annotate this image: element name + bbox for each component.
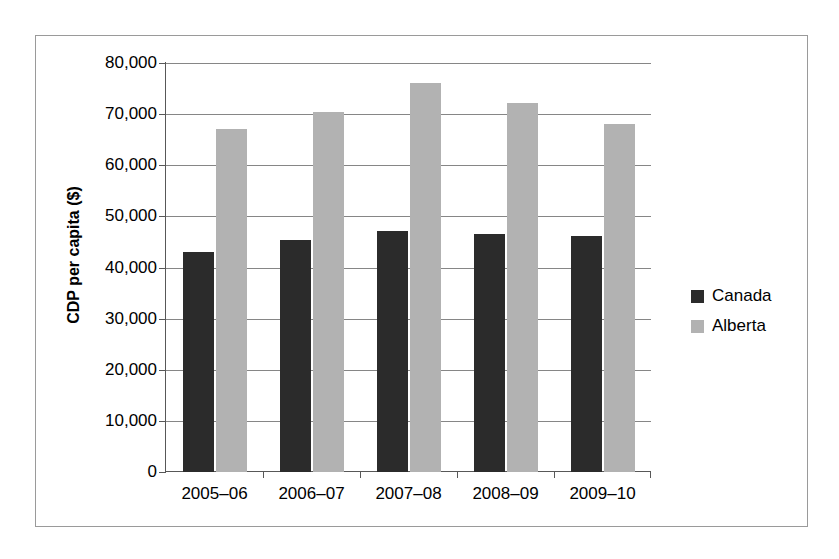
x-tick-mark <box>263 472 264 478</box>
y-tick-mark <box>159 268 166 269</box>
legend-swatch-icon <box>691 320 704 333</box>
bar-group <box>183 63 247 472</box>
bar-group <box>474 63 538 472</box>
plot-area: 010,00020,00030,00040,00050,00060,00070,… <box>166 63 651 472</box>
x-tick-mark <box>650 472 651 478</box>
y-tick-mark <box>159 370 166 371</box>
y-tick-label: 0 <box>148 462 157 482</box>
bar-group <box>571 63 635 472</box>
legend-label: Alberta <box>712 316 766 336</box>
y-tick-label: 40,000 <box>105 258 157 278</box>
bar-canada-2009–10[interactable] <box>571 236 602 472</box>
y-axis-title: CDP per capita ($) <box>65 155 83 355</box>
bar-alberta-2005–06[interactable] <box>216 129 247 472</box>
y-tick-label: 50,000 <box>105 206 157 226</box>
y-tick-label: 60,000 <box>105 155 157 175</box>
y-tick-mark <box>159 319 166 320</box>
y-tick-mark <box>159 216 166 217</box>
legend-label: Canada <box>712 286 772 306</box>
y-tick-mark <box>159 165 166 166</box>
y-tick-label: 80,000 <box>105 53 157 73</box>
bar-canada-2005–06[interactable] <box>183 252 214 472</box>
x-tick-label: 2008–09 <box>472 484 538 504</box>
x-tick-label: 2007–08 <box>375 484 441 504</box>
y-tick-label: 30,000 <box>105 309 157 329</box>
y-tick-mark <box>159 421 166 422</box>
bar-group <box>377 63 441 472</box>
x-tick-mark <box>554 472 555 478</box>
bar-group <box>280 63 344 472</box>
x-tick-label: 2006–07 <box>278 484 344 504</box>
y-tick-label: 70,000 <box>105 104 157 124</box>
chart-figure: CDP per capita ($) 010,00020,00030,00040… <box>35 35 808 527</box>
chart-legend: CanadaAlberta <box>691 281 772 341</box>
y-tick-label: 10,000 <box>105 411 157 431</box>
bar-alberta-2008–09[interactable] <box>507 103 538 472</box>
bar-canada-2007–08[interactable] <box>377 231 408 472</box>
x-tick-mark <box>360 472 361 478</box>
legend-entry-canada[interactable]: Canada <box>691 281 772 311</box>
bar-alberta-2006–07[interactable] <box>313 112 344 472</box>
x-tick-label: 2005–06 <box>181 484 247 504</box>
bar-canada-2008–09[interactable] <box>474 234 505 472</box>
bar-alberta-2009–10[interactable] <box>604 124 635 472</box>
legend-entry-alberta[interactable]: Alberta <box>691 311 772 341</box>
x-tick-label: 2009–10 <box>569 484 635 504</box>
bar-alberta-2007–08[interactable] <box>410 83 441 472</box>
legend-swatch-icon <box>691 290 704 303</box>
y-tick-mark <box>159 114 166 115</box>
y-tick-mark <box>159 63 166 64</box>
bar-canada-2006–07[interactable] <box>280 240 311 472</box>
y-tick-mark <box>159 472 166 473</box>
x-tick-mark <box>457 472 458 478</box>
y-tick-label: 20,000 <box>105 360 157 380</box>
